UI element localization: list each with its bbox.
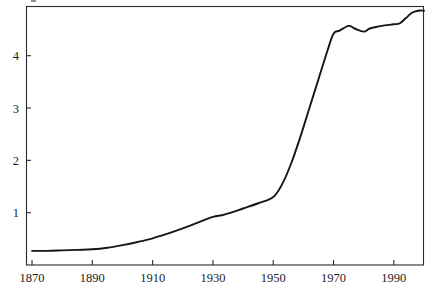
x-tick-label: 1930 [200,271,225,285]
x-tick-label: 1970 [321,271,346,285]
x-tick-label: 1890 [80,271,105,285]
line-chart-canvas: 1870189019101930195019701990 1234 [0,0,432,296]
x-tick-label: 1910 [140,271,165,285]
chart-figure: 1870189019101930195019701990 1234 [0,0,432,296]
y-tick-label: 3 [13,102,19,116]
x-tick-label: 1990 [381,271,406,285]
cropped-glyph-fragment [31,0,36,2]
x-tick-label: 1870 [20,271,45,285]
y-tick-label: 2 [13,154,19,168]
y-tick-label: 4 [13,49,20,63]
x-tick-label: 1950 [261,271,286,285]
chart-background [0,0,432,296]
y-tick-label: 1 [13,206,19,220]
